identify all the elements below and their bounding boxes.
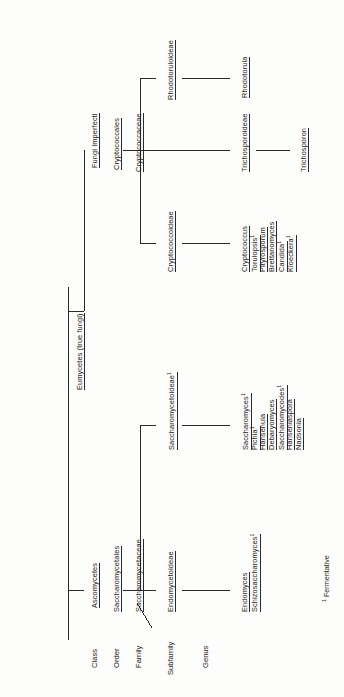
subfamily-rhodotoruloideae: Rhodotoruloideae (167, 40, 176, 100)
subfamily-saccharomycetoideae: Saccharomycetoideae1 (167, 372, 178, 450)
fermentative-marker: 1 (276, 385, 282, 388)
fermentative-marker: 1 (249, 235, 255, 238)
genus-name: Endomyces (240, 572, 249, 612)
genus-brettanomyces: Brettanomyces (268, 221, 277, 272)
family-saccharomycetaceae: Saccharomycetaceae (135, 539, 144, 612)
footnote-marker: 1 (321, 599, 327, 602)
genus-name: Nadsonia (294, 418, 303, 450)
genus-name: Brettanomyces (267, 221, 276, 272)
genus-name: Hanseniaspora (285, 399, 294, 450)
rank-label-genus: Genus (202, 646, 210, 668)
footnote-text: Fermentative (322, 555, 331, 597)
genus-endomyces: Endomyces (241, 572, 250, 612)
genus-name: Schizosaccharomyces (250, 537, 259, 612)
subfamily-cryptococcoideae: Cryptococcoideae (167, 211, 176, 272)
order-cryptococcales: Cryptococcales (113, 118, 122, 170)
subfamily-trichosporoideae: Trichosporoideae (241, 114, 250, 172)
family-cryptococcaceae: Cryptococcaceae (135, 113, 144, 172)
rank-label-order: Order (113, 649, 121, 668)
class-ascomycetes: Ascomycetes (91, 563, 100, 608)
genus-name: Cryptococcus (240, 226, 249, 272)
fermentative-marker: 1 (240, 393, 246, 396)
genus-debaryomyces: Debaryomyces (268, 400, 277, 451)
fermentative-marker: 1 (249, 426, 255, 429)
fermentative-marker: 1 (276, 241, 282, 244)
genus-rhodotorula: Rhodotorula (241, 57, 250, 98)
order-saccharomycetales: Saccharomycetales (113, 546, 122, 612)
genus-name: Debaryomyces (267, 400, 276, 451)
subfamily-endomycetoideae: Endomycetoideae (167, 551, 176, 612)
genus-kloeckera: Kloeckera1 (286, 235, 297, 272)
root-label: Eumycetes (true fungi) (76, 313, 85, 390)
fermentative-marker: 1 (285, 235, 291, 238)
genus-nadsonia: Nadsonia (295, 418, 304, 450)
genus-cryptococcus: Cryptococcus (241, 226, 250, 272)
rank-label-class: Class (91, 649, 99, 668)
subfamily-name: Saccharomycetoideae (167, 375, 176, 450)
rank-label-subfamily: Subfamily (167, 642, 175, 675)
rank-label-family: Family (135, 646, 143, 668)
genus-trichosporon: Trichosporon (300, 128, 309, 172)
genus-name: Kloeckera (286, 238, 295, 272)
class-fungi-imperfecti: Fungi Imperfecti (91, 113, 100, 168)
fermentative-marker: 1 (249, 534, 255, 537)
fermentative-marker: 1 (166, 372, 172, 375)
genus-name: Hansenula (258, 414, 267, 450)
footnote: 1 Fermentative (322, 555, 331, 602)
genus-name: Pityrosporum (258, 227, 267, 272)
genus-schizosaccharomyces: Schizosaccharomyces1 (250, 534, 261, 612)
